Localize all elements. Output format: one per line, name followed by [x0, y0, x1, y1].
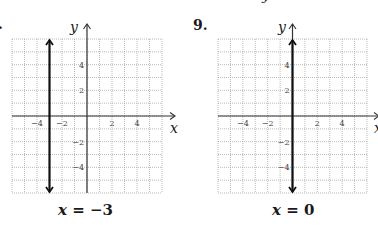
x-axis-label: x — [170, 120, 178, 136]
caption-value: = −3 — [67, 201, 113, 219]
coordinate-grid-2: xy−4−22442−2−4 — [206, 0, 378, 200]
x-tick-label: 4 — [134, 119, 139, 128]
y-tick-label: −4 — [72, 163, 84, 172]
x-tick-label: 2 — [109, 119, 114, 128]
y-tick-label: 4 — [79, 61, 84, 70]
y-axis-label: y — [277, 19, 287, 35]
caption-variable: x — [272, 201, 281, 219]
coordinate-grid-1: xy−4−22442−2−4 — [0, 0, 190, 200]
y-tick-label: 2 — [79, 86, 84, 95]
x-tick-label: 2 — [315, 119, 320, 128]
y-tick-label: −4 — [278, 163, 290, 172]
x-tick-label: −4 — [31, 119, 43, 128]
y-tick-label: 4 — [284, 61, 289, 70]
x-tick-label: −2 — [56, 119, 68, 128]
y-tick-label: −2 — [278, 138, 290, 147]
x-tick-label: −2 — [262, 119, 274, 128]
caption-value: = 0 — [281, 201, 314, 219]
graph-panel-x-equals-0: xy−4−22442−2−4 x = 0 — [206, 0, 378, 226]
y-tick-label: 2 — [284, 86, 289, 95]
caption-variable: x — [58, 201, 67, 219]
x-tick-label: −4 — [237, 119, 249, 128]
x-axis-label: x — [374, 120, 378, 136]
graph-panel-x-equals-minus-3: xy−4−22442−2−4 x = −3 — [0, 0, 190, 226]
equation-caption-2: x = 0 — [272, 201, 314, 219]
equation-caption-1: x = −3 — [58, 201, 113, 219]
x-tick-label: 4 — [340, 119, 345, 128]
y-axis-label: y — [69, 19, 79, 35]
y-tick-label: −2 — [72, 138, 84, 147]
